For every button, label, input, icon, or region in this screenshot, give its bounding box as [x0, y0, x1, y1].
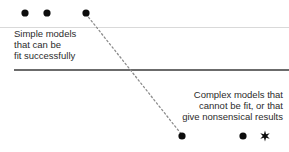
trend-connector-group	[86, 14, 182, 135]
figure-canvas: Simple models that can be fit successful…	[0, 0, 289, 152]
complex-models-points-marker	[239, 132, 246, 139]
simple-models-points-marker	[82, 9, 89, 16]
complex-models-label: Complex models that cannot be fit, or th…	[182, 89, 283, 123]
simple-models-label: Simple models that can be fit successful…	[14, 28, 76, 62]
simple-models-points-marker	[43, 9, 50, 16]
special-point-marker	[260, 131, 269, 142]
simple-models-points-marker	[21, 9, 28, 16]
trend-connector	[86, 14, 182, 135]
figure-graphics	[0, 0, 289, 152]
complex-models-points-marker	[178, 132, 185, 139]
